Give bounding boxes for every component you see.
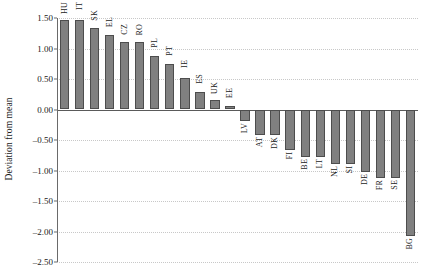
bar-label-at: AT bbox=[256, 137, 264, 147]
bar-label-ie: IE bbox=[181, 60, 189, 68]
bar-label-se: SE bbox=[391, 180, 399, 190]
bar-label-ro: RO bbox=[136, 24, 144, 36]
bar-label-it: IT bbox=[76, 2, 84, 10]
bar-label-nl: NL bbox=[331, 166, 339, 177]
bar-label-ee: EE bbox=[226, 88, 234, 98]
bar-label-fi: FI bbox=[286, 152, 294, 160]
y-axis-title: Deviation from mean bbox=[0, 0, 18, 278]
bar-label-lt: LT bbox=[316, 159, 324, 168]
bar-labels: HUITSKELCZROPLPTIEESUKEELVATDKFIBELTNLSI… bbox=[57, 18, 418, 262]
bar-label-dk: DK bbox=[271, 137, 279, 149]
bar-label-es: ES bbox=[196, 74, 204, 84]
bar-label-bg: BG bbox=[406, 238, 414, 250]
bar-label-de: DE bbox=[361, 174, 369, 185]
bar-label-be: BE bbox=[301, 159, 309, 170]
bar-chart: Deviation from mean 1.501.000.500.00–0.5… bbox=[0, 0, 423, 278]
bar-label-si: SI bbox=[346, 166, 354, 174]
bar-label-uk: UK bbox=[211, 82, 219, 94]
bar-label-el: EL bbox=[106, 17, 114, 27]
plot-area: 1.501.000.500.00–0.50–1.00–1.50–2.00–2.5… bbox=[57, 18, 418, 262]
gridline bbox=[57, 262, 418, 263]
bar-label-lv: LV bbox=[241, 123, 249, 133]
bar-label-pl: PL bbox=[151, 38, 159, 48]
bar-label-fr: FR bbox=[376, 180, 384, 190]
bar-label-cz: CZ bbox=[121, 24, 129, 35]
bar-label-sk: SK bbox=[91, 10, 99, 21]
bar-label-hu: HU bbox=[61, 2, 69, 14]
bar-label-pt: PT bbox=[166, 46, 174, 56]
